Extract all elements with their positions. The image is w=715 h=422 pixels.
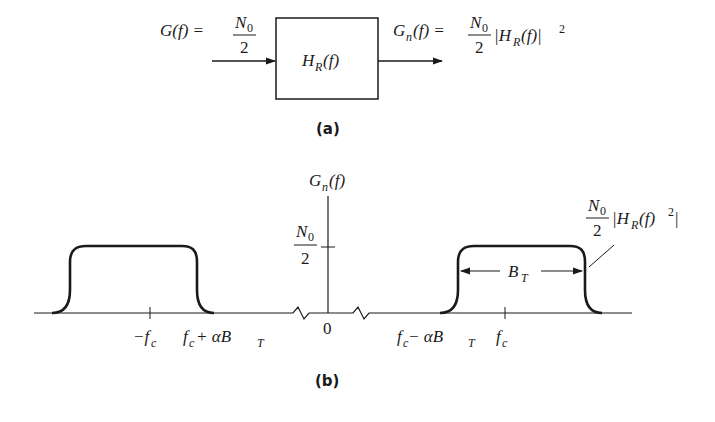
- svg-text:n: n: [322, 180, 328, 194]
- svg-text:(f)|: (f)|: [521, 26, 542, 45]
- svg-text:c: c: [151, 336, 157, 350]
- annotation-leader-line: [589, 245, 614, 267]
- x-label-pos-band-edge: f c − αB T: [397, 327, 476, 350]
- svg-text:c: c: [189, 336, 195, 350]
- svg-text:2: 2: [559, 22, 565, 36]
- svg-text:2: 2: [593, 221, 602, 240]
- y-tick-label: N 0 2: [294, 222, 317, 268]
- svg-text:|H: |H: [494, 26, 513, 45]
- svg-text:0: 0: [247, 21, 253, 35]
- svg-text:2: 2: [475, 38, 484, 57]
- svg-text:B: B: [508, 262, 519, 281]
- svg-text:(f) =: (f) =: [413, 21, 445, 40]
- part-b-spectrum-plot: G n (f) N 0 2 0 −f c f c + αB: [34, 171, 678, 390]
- output-psd-label: G n (f) = N 0 2 |H R (f)| 2: [393, 13, 565, 57]
- input-fraction: N 0 2: [233, 13, 256, 57]
- y-axis-label: G n (f): [309, 171, 345, 194]
- caption-a: (a): [316, 120, 340, 138]
- svg-text:N: N: [234, 13, 248, 32]
- svg-text:(f): (f): [329, 171, 345, 190]
- svg-text:N: N: [469, 13, 483, 32]
- bandwidth-label: B T: [508, 262, 529, 285]
- svg-text:2: 2: [240, 38, 249, 57]
- svg-text:T: T: [257, 336, 265, 350]
- svg-text:− αB: − αB: [408, 327, 444, 346]
- svg-text:N: N: [295, 222, 309, 241]
- svg-text:T: T: [468, 336, 476, 350]
- negative-frequency-passband-curve: [52, 246, 214, 313]
- svg-text:n: n: [406, 30, 412, 44]
- svg-text:0: 0: [308, 230, 314, 244]
- diagram-canvas: G(f) = N 0 2 H R (f) G n (f) = N 0 2 |H: [0, 0, 715, 422]
- filter-block-label: H R (f): [301, 51, 339, 74]
- svg-text:N: N: [587, 196, 601, 215]
- svg-text:|H: |H: [612, 209, 631, 228]
- svg-text:−f: −f: [133, 327, 151, 346]
- svg-text:+ αB: + αB: [196, 327, 232, 346]
- svg-text:G: G: [393, 21, 405, 40]
- x-label-neg-fc: −f c: [133, 327, 157, 350]
- x-axis: [34, 307, 632, 319]
- x-label-neg-band-edge: f c + αB T: [183, 327, 265, 350]
- svg-text:T: T: [521, 271, 529, 285]
- origin-label: 0: [323, 319, 332, 338]
- curve-annotation-label: N 0 2 |H R (f) 2 |: [586, 196, 678, 240]
- svg-text:(f): (f): [323, 51, 339, 70]
- svg-text:2: 2: [301, 249, 310, 268]
- input-psd-label: G(f) =: [160, 21, 204, 40]
- svg-text:H: H: [301, 51, 316, 70]
- caption-b: (b): [315, 372, 339, 390]
- svg-text:R: R: [314, 60, 323, 74]
- x-label-pos-fc: f c: [496, 327, 508, 350]
- svg-text:R: R: [630, 218, 639, 232]
- svg-text:(f): (f): [639, 209, 655, 228]
- part-a-block-diagram: G(f) = N 0 2 H R (f) G n (f) = N 0 2 |H: [160, 13, 565, 138]
- svg-text:0: 0: [600, 204, 606, 218]
- svg-text:2: 2: [668, 205, 674, 219]
- svg-text:c: c: [502, 336, 508, 350]
- svg-text:|: |: [675, 209, 678, 228]
- svg-text:G: G: [309, 171, 321, 190]
- svg-text:R: R: [512, 35, 521, 49]
- svg-text:0: 0: [482, 21, 488, 35]
